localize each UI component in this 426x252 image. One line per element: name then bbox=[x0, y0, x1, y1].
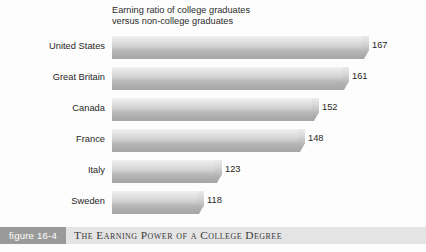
bar-end-cap-icon bbox=[215, 160, 222, 183]
bar-row: Sweden 118 bbox=[0, 189, 426, 217]
bar-body bbox=[112, 160, 215, 183]
chart-title: Earning ratio of college graduates versu… bbox=[112, 5, 372, 28]
bar-sweden bbox=[112, 191, 197, 214]
bar-end-cap-icon bbox=[298, 129, 305, 152]
chart-plot-area: United States 167 Great Britain 161 Cana… bbox=[0, 34, 426, 222]
bar-italy bbox=[112, 160, 215, 183]
value-label: 167 bbox=[372, 40, 388, 50]
bar-row: Canada 152 bbox=[0, 96, 426, 124]
bar-great-britain bbox=[112, 67, 342, 90]
bar-body bbox=[112, 98, 312, 121]
value-label: 148 bbox=[308, 133, 324, 143]
value-label: 123 bbox=[225, 164, 241, 174]
figure-number-tag: figure 16-4 bbox=[0, 227, 66, 244]
bar-end-cap-icon bbox=[197, 191, 204, 214]
category-label: Canada bbox=[0, 103, 105, 113]
bar-end-cap-icon bbox=[342, 67, 349, 90]
category-label: Italy bbox=[0, 165, 105, 175]
bar-body bbox=[112, 36, 362, 59]
bar-body bbox=[112, 191, 197, 214]
value-label: 161 bbox=[352, 71, 368, 81]
category-label: Great Britain bbox=[0, 72, 105, 82]
figure-container: Earning ratio of college graduates versu… bbox=[0, 0, 426, 252]
bar-body bbox=[112, 67, 342, 90]
bar-row: United States 167 bbox=[0, 34, 426, 62]
bar-row: Italy 123 bbox=[0, 158, 426, 186]
category-label: France bbox=[0, 134, 105, 144]
value-label: 152 bbox=[322, 102, 338, 112]
figure-caption-text: The Earning Power of a College Degree bbox=[74, 227, 282, 244]
bar-france bbox=[112, 129, 298, 152]
bar-body bbox=[112, 129, 298, 152]
category-label: Sweden bbox=[0, 196, 105, 206]
bar-row: France 148 bbox=[0, 127, 426, 155]
bar-row: Great Britain 161 bbox=[0, 65, 426, 93]
bar-united-states bbox=[112, 36, 362, 59]
bar-canada bbox=[112, 98, 312, 121]
value-label: 118 bbox=[207, 195, 222, 205]
category-label: United States bbox=[0, 41, 105, 51]
bar-end-cap-icon bbox=[312, 98, 319, 121]
figure-caption-band: figure 16-4 The Earning Power of a Colle… bbox=[0, 227, 426, 244]
bar-end-cap-icon bbox=[362, 36, 369, 59]
